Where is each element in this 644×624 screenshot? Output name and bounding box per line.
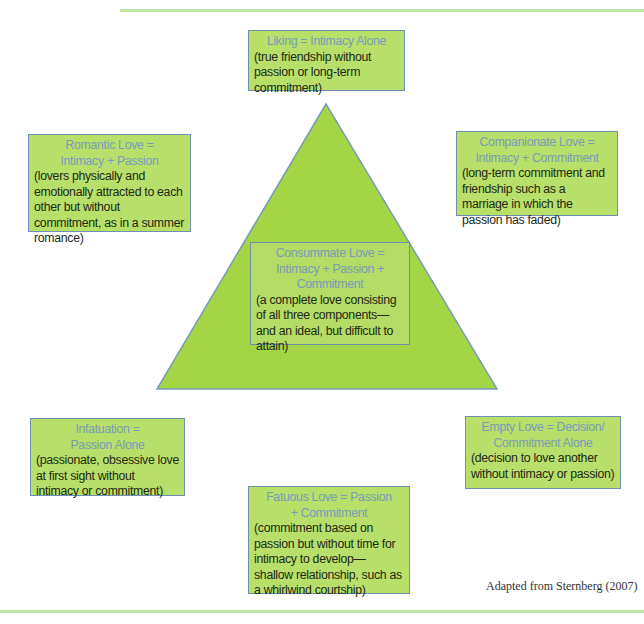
box-desc: (passionate, obsessive love at first sig… [36, 453, 179, 500]
box-desc: (true friendship without passion or long… [254, 50, 399, 97]
box-companionate: Companionate Love = Intimacy + Commitmen… [456, 131, 618, 216]
bottom-rule [0, 610, 644, 613]
box-liking: Liking = Intimacy Alone (true friendship… [248, 30, 405, 91]
figure-credit: Adapted from Sternberg (2007) [486, 579, 637, 594]
box-title: Consummate Love = Intimacy + Passion + C… [256, 246, 404, 293]
box-infatuation: Infatuation = Passion Alone (passionate,… [30, 418, 185, 496]
box-title: Fatuous Love = Passion + Commitment [254, 490, 404, 521]
box-desc: (a complete love consisting of all three… [256, 293, 404, 355]
box-title: Companionate Love = Intimacy + Commitmen… [462, 135, 612, 166]
box-title: Infatuation = Passion Alone [36, 422, 179, 453]
box-empty: Empty Love = Decision/ Commitment Alone … [465, 416, 621, 489]
box-romantic: Romantic Love = Intimacy + Passion (love… [28, 134, 191, 232]
box-desc: (decision to love another without intima… [471, 451, 615, 482]
box-title: Liking = Intimacy Alone [254, 34, 399, 50]
box-desc: (lovers physically and emotionally attra… [34, 169, 185, 247]
box-title: Empty Love = Decision/ Commitment Alone [471, 420, 615, 451]
box-desc: (long-term commitment and friendship suc… [462, 166, 612, 228]
box-consummate: Consummate Love = Intimacy + Passion + C… [250, 242, 410, 345]
box-desc: (commitment based on passion but without… [254, 521, 404, 599]
box-fatuous: Fatuous Love = Passion + Commitment (com… [248, 486, 410, 594]
box-title: Romantic Love = Intimacy + Passion [34, 138, 185, 169]
